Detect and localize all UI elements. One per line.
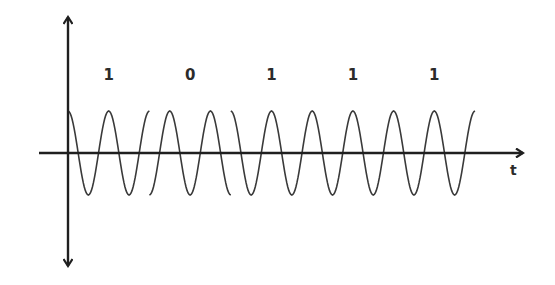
time-axis-label: t [510, 162, 517, 178]
bit-label: 1 [103, 66, 113, 84]
bit-label: 1 [266, 66, 276, 84]
bit-label: 1 [348, 66, 358, 84]
psk-diagram [0, 0, 555, 285]
bit-label: 1 [429, 66, 439, 84]
bit-label: 0 [185, 66, 195, 84]
